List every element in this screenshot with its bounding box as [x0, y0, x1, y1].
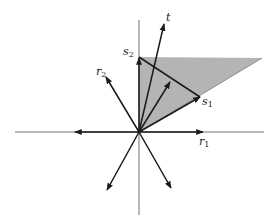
- label-r2: r2: [96, 65, 106, 79]
- label-s2: s2: [123, 45, 134, 59]
- vector-lower-right: [139, 132, 171, 188]
- label-t: t: [166, 11, 171, 24]
- cone-diagram: t s2 s1 r2 r1: [0, 0, 273, 222]
- label-r1: r1: [199, 135, 209, 149]
- label-s1: s1: [202, 95, 213, 109]
- vector-r2: [106, 77, 139, 132]
- vector-lower-left: [107, 132, 139, 190]
